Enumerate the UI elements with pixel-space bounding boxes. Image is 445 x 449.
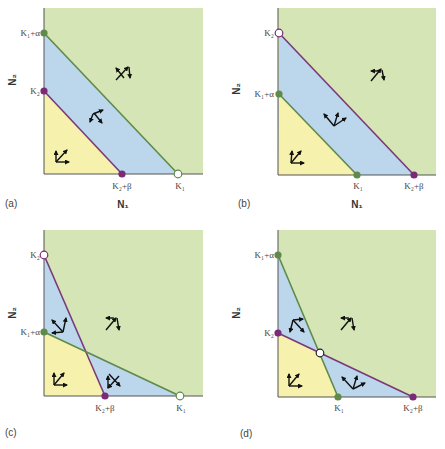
unstable-equilibrium-point [316, 349, 324, 357]
y-tick-label: K₂ [264, 328, 274, 338]
x-axis-label: N₁ [117, 199, 128, 210]
x-tick-label: K₁ [176, 403, 186, 413]
point-k2 [274, 329, 281, 336]
point-k1-open [174, 170, 182, 178]
panel-c: K₂ K₁+α K₂+β K₁ N₂ (c) [5, 230, 203, 438]
x-axis-label: N₁ [351, 199, 362, 210]
point-k2-beta [101, 392, 108, 399]
point-k1-alpha [274, 251, 281, 258]
point-k1-open [176, 392, 184, 400]
point-k1-alpha [40, 29, 47, 36]
point-k2-beta [409, 393, 416, 400]
point-k2-open [40, 251, 48, 259]
x-tick-label: K₂+β [112, 181, 132, 191]
point-k2-beta [410, 171, 417, 178]
y-tick-label: K₁+α [255, 89, 275, 99]
point-k1 [353, 171, 360, 178]
point-k2-open [275, 29, 283, 37]
x-tick-label: K₂+β [403, 403, 423, 413]
panel-b: K₂ K₁+α K₁ K₂+β N₁ N₂ (b) [231, 8, 436, 210]
x-tick-label: K₁ [175, 181, 185, 191]
y-tick-label: K₁+α [21, 327, 41, 337]
panel-d: K₁+α K₂ K₁ K₂+β N₂ (d) [231, 230, 436, 439]
x-tick-label: K₁ [353, 181, 363, 191]
point-k1-alpha [40, 328, 47, 335]
x-tick-label: K₂+β [404, 181, 424, 191]
panel-label: (c) [5, 427, 17, 438]
point-k1 [334, 393, 341, 400]
y-axis-label: N₂ [231, 307, 242, 319]
panel-label: (a) [5, 198, 17, 209]
x-tick-label: K₁ [334, 403, 344, 413]
point-k2-beta [118, 170, 125, 177]
y-tick-label: K₁+α [255, 250, 275, 260]
y-tick-label: K₂ [264, 28, 274, 38]
y-axis-label: N₂ [231, 83, 242, 95]
y-tick-label: K₁+α [21, 28, 41, 38]
x-tick-label: K₂+β [95, 403, 115, 413]
panel-label: (b) [238, 198, 250, 209]
y-axis-label: N₂ [7, 74, 18, 86]
y-axis-label: N₂ [7, 307, 18, 319]
point-k1-alpha [275, 90, 282, 97]
point-k2 [40, 87, 47, 94]
panel-label: (d) [240, 428, 252, 439]
panel-a: K₁+α K₂ K₂+β K₁ N₁ N₂ (a) [5, 8, 203, 210]
competition-isocline-diagrams: K₁+α K₂ K₂+β K₁ N₁ N₂ (a) [0, 0, 445, 449]
y-tick-label: K₂ [30, 86, 40, 96]
y-tick-label: K₂ [30, 250, 40, 260]
